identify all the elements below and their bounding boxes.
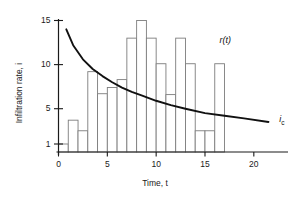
histogram-bar <box>205 131 215 152</box>
x-tick-label: 15 <box>193 159 217 169</box>
histogram-bar <box>68 120 78 152</box>
histogram-bar <box>107 88 117 152</box>
ic-annotation-label: ic <box>279 114 284 126</box>
histogram-bar <box>59 144 69 152</box>
x-tick-label: 10 <box>144 159 168 169</box>
x-tick-label: 5 <box>95 159 119 169</box>
histogram-bar <box>176 38 186 152</box>
histogram-bar <box>195 131 205 152</box>
histogram-bar <box>146 38 156 152</box>
chart-plot-area <box>0 0 305 200</box>
histogram-bar <box>88 72 98 152</box>
histogram-bar <box>98 94 108 152</box>
histogram-bars <box>59 21 225 153</box>
histogram-bar <box>215 64 225 152</box>
chart-figure: Infiltration rate, i Time, t 05101520 15… <box>0 0 305 200</box>
histogram-bar <box>185 64 195 152</box>
y-tick-label: 1 <box>29 139 51 149</box>
x-tick-label: 0 <box>47 159 71 169</box>
y-tick-label: 15 <box>29 15 51 25</box>
histogram-bar <box>117 80 127 152</box>
histogram-bar <box>137 21 147 153</box>
rt-annotation-label: r(t) <box>219 35 231 45</box>
y-axis-label: Infiltration rate, i <box>14 38 24 148</box>
histogram-bar <box>78 131 88 152</box>
x-tick-label: 20 <box>242 159 266 169</box>
y-tick-label: 5 <box>29 103 51 113</box>
histogram-bar <box>156 64 166 152</box>
histogram-bar <box>127 38 137 152</box>
x-axis-label: Time, t <box>100 178 210 188</box>
y-tick-label: 10 <box>29 59 51 69</box>
